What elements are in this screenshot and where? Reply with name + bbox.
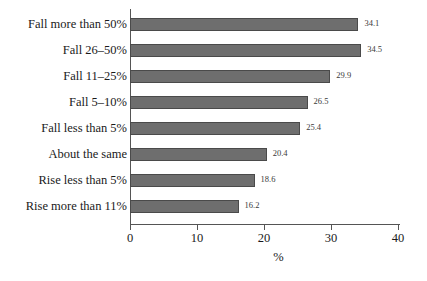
bar-row: 16.2: [130, 194, 398, 220]
bar-value-label: 26.5: [314, 95, 329, 108]
bar-row: 29.9: [130, 64, 398, 90]
bar-value-label: 34.5: [367, 43, 382, 56]
bar-value-label: 25.4: [306, 121, 321, 134]
bar-row: 18.6: [130, 168, 398, 194]
category-label: Fall 11–25%: [3, 70, 127, 83]
bar: [130, 44, 361, 57]
category-label: Fall less than 5%: [3, 122, 127, 135]
category-label: Rise more than 11%: [3, 200, 127, 213]
bar: [130, 70, 330, 83]
category-label: Fall more than 50%: [3, 18, 127, 31]
bar-row: 26.5: [130, 90, 398, 116]
plot-area: 34.134.529.926.525.420.418.616.2: [130, 12, 398, 224]
x-tick-label: 10: [191, 231, 204, 246]
x-axis-title-text: %: [273, 250, 283, 265]
x-tick-mark: [264, 225, 265, 230]
bar-row: 20.4: [130, 142, 398, 168]
x-tick-mark: [197, 225, 198, 230]
bar-value-label: 18.6: [261, 173, 276, 186]
x-axis-title: %: [0, 250, 427, 265]
x-tick-label: 40: [392, 231, 405, 246]
bar-value-label: 29.9: [336, 69, 351, 82]
bar: [130, 18, 358, 31]
bar: [130, 200, 239, 213]
bar-row: 34.1: [130, 12, 398, 38]
bar: [130, 174, 255, 187]
x-tick-mark: [331, 225, 332, 230]
category-label: Fall 26–50%: [3, 44, 127, 57]
category-label: Fall 5–10%: [3, 96, 127, 109]
category-label: About the same: [3, 148, 127, 161]
bar-row: 25.4: [130, 116, 398, 142]
x-tick-mark: [398, 225, 399, 230]
bar: [130, 96, 308, 109]
x-tick-label: 30: [325, 231, 338, 246]
bar-chart: Fall more than 50%Fall 26–50%Fall 11–25%…: [0, 0, 427, 281]
bar-value-label: 34.1: [364, 17, 379, 30]
x-tick-mark: [130, 225, 131, 230]
category-label: Rise less than 5%: [3, 174, 127, 187]
bar: [130, 148, 267, 161]
category-axis-labels: Fall more than 50%Fall 26–50%Fall 11–25%…: [0, 12, 127, 224]
x-tick-label: 20: [258, 231, 271, 246]
x-tick-label: 0: [127, 231, 133, 246]
bar-value-label: 20.4: [273, 147, 288, 160]
bar: [130, 122, 300, 135]
bar-value-label: 16.2: [245, 199, 260, 212]
bar-row: 34.5: [130, 38, 398, 64]
x-axis-line: [130, 224, 400, 225]
